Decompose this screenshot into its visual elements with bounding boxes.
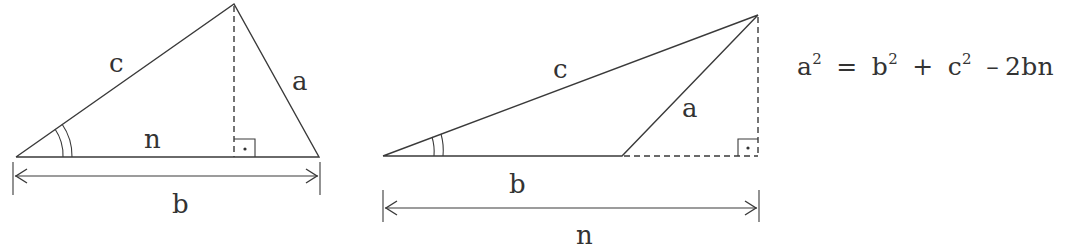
formula-lhs-exponent: 2 bbox=[812, 50, 822, 68]
angle-arc-icon bbox=[62, 124, 72, 157]
figure-acute-triangle: c a n b bbox=[13, 4, 320, 219]
formula-minus: – bbox=[986, 52, 999, 81]
label-side-b: b bbox=[172, 189, 189, 219]
angle-arc-icon bbox=[441, 134, 443, 156]
label-side-a: a bbox=[682, 93, 698, 123]
formula-term1-base: b bbox=[872, 52, 888, 81]
triangle-2-sides bbox=[383, 15, 758, 156]
formula-term3: 2bn bbox=[1005, 52, 1054, 81]
label-segment-n: n bbox=[576, 220, 593, 249]
label-side-a: a bbox=[292, 66, 308, 96]
figure-obtuse-triangle: c a b n bbox=[383, 15, 759, 249]
law-of-cosines-diagram: c a n b c a b n bbox=[0, 0, 1076, 249]
formula-term2-base: c bbox=[948, 52, 962, 81]
label-side-c: c bbox=[553, 54, 568, 84]
label-side-b: b bbox=[509, 169, 526, 199]
label-segment-n: n bbox=[144, 124, 161, 154]
angle-arc-icon bbox=[55, 129, 63, 157]
law-of-cosines-formula: a2 = b2 + c2 –2bn bbox=[797, 52, 1054, 81]
right-angle-dot-icon bbox=[243, 147, 246, 150]
formula-equals: = bbox=[836, 52, 857, 81]
formula-plus: + bbox=[912, 52, 933, 81]
triangle-1-sides bbox=[16, 4, 319, 157]
formula-lhs-base: a bbox=[797, 52, 812, 81]
right-angle-dot-icon bbox=[746, 146, 749, 149]
formula-term2-exponent: 2 bbox=[962, 50, 972, 68]
formula-term1-exponent: 2 bbox=[888, 50, 898, 68]
label-side-c: c bbox=[109, 48, 124, 78]
angle-arc-icon bbox=[432, 137, 434, 156]
